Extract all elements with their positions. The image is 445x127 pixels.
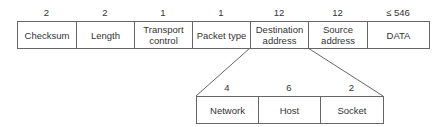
size-length: 2 [76,7,134,18]
packet-header-row: Checksum Length Transport control Packet… [17,21,430,49]
field-packet-type: Packet type [193,22,251,48]
size-checksum: 2 [17,7,76,18]
field-socket: Socket [321,97,383,123]
field-length: Length [77,22,135,48]
size-destination-address: 12 [250,7,308,18]
field-data: DATA [368,22,429,48]
field-checksum: Checksum [18,22,77,48]
size-data: ≤ 546 [367,7,429,18]
address-breakdown-row: Network Host Socket [196,96,384,124]
size-network: 4 [196,82,258,93]
field-transport-control: Transport control [135,22,193,48]
field-source-address: Source address [309,22,368,48]
size-socket: 2 [320,82,383,93]
size-source-address: 12 [308,7,367,18]
field-host: Host [259,97,321,123]
size-packet-type: 1 [192,7,250,18]
size-transport-control: 1 [134,7,192,18]
field-destination-address: Destination address [251,22,309,48]
field-network: Network [197,97,259,123]
size-host: 6 [258,82,320,93]
